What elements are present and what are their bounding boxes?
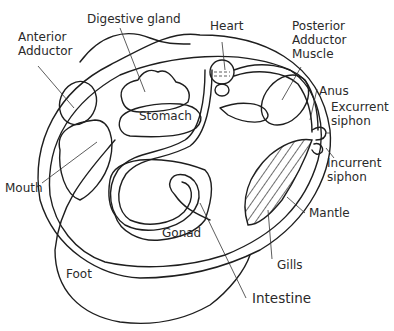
foot-outline [55,140,250,323]
excurrent-siphon-tube [312,127,326,140]
leader-mantle [287,197,305,213]
mouth-shape [59,120,112,200]
anterior-adductor-shape [54,76,103,130]
intestine-path-outer [111,70,210,230]
label-gonad: Gonad [162,226,201,240]
heart-lower [215,84,229,96]
leader-intestine [200,203,246,298]
hinge-hump [80,34,190,62]
label-anus: Anus [319,84,349,98]
label-stomach: Stomach [139,109,192,123]
leader-digestive-gland [120,28,145,92]
label-posterior-adductor: Posterior Adductor Muscle [292,19,346,61]
label-foot: Foot [66,267,92,281]
label-anterior-adductor: Anterior Adductor [18,30,72,58]
label-incurrent-siphon: Incurrent siphon [327,156,381,184]
leader-anterior-adductor [38,66,74,108]
label-digestive-gland: Digestive gland [87,12,181,26]
kidney-loop [220,103,268,122]
leader-gills [268,210,272,259]
rectum-inner [234,72,312,132]
leader-mouth [42,142,97,183]
gills-shape [245,140,312,225]
label-gills: Gills [277,258,303,272]
label-mouth: Mouth [5,181,43,195]
digestive-gland-shape [121,70,189,112]
label-intestine: Intestine [252,291,311,305]
clam-anatomy-diagram: Anterior Adductor Digestive gland Heart … [0,0,394,331]
label-excurrent-siphon: Excurrent siphon [331,100,389,128]
label-mantle: Mantle [309,206,350,220]
label-heart: Heart [210,19,243,33]
